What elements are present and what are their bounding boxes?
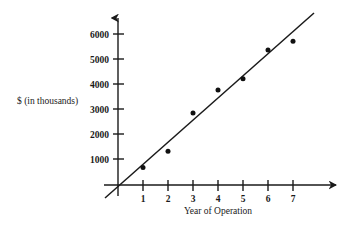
chart-canvas: 1000 2000 3000 4000 5000 6000 1 2 3 4 5 … xyxy=(0,0,362,235)
data-point xyxy=(216,88,221,93)
trend-line xyxy=(105,13,314,198)
x-tick-label-7: 7 xyxy=(291,194,296,204)
axes-group xyxy=(104,18,336,196)
x-tick-label-4: 4 xyxy=(216,194,221,204)
y-tick-label-3000: 3000 xyxy=(90,105,109,115)
data-point xyxy=(191,111,196,116)
data-point xyxy=(266,48,271,53)
data-point xyxy=(166,149,171,154)
y-tick-label-5000: 5000 xyxy=(90,55,109,65)
x-tick-label-5: 5 xyxy=(241,194,246,204)
y-tick-label-4000: 4000 xyxy=(90,80,109,90)
data-point xyxy=(141,165,146,170)
data-points-group xyxy=(141,39,296,170)
x-tick-label-3: 3 xyxy=(191,194,196,204)
data-point xyxy=(291,39,296,44)
y-tick-label-1000: 1000 xyxy=(90,155,109,165)
y-tick-label-2000: 2000 xyxy=(90,130,109,140)
x-axis-tick-labels: 1 2 3 4 5 6 7 xyxy=(141,194,296,204)
y-axis-title: $ (in thousands) xyxy=(17,96,78,107)
y-tick-label-6000: 6000 xyxy=(90,30,109,40)
data-point xyxy=(241,76,246,81)
x-tick-label-6: 6 xyxy=(266,194,271,204)
x-tick-label-1: 1 xyxy=(141,194,146,204)
scatter-chart: 1000 2000 3000 4000 5000 6000 1 2 3 4 5 … xyxy=(0,0,362,235)
x-tick-label-2: 2 xyxy=(166,194,171,204)
y-axis-tick-labels: 1000 2000 3000 4000 5000 6000 xyxy=(90,30,109,165)
x-axis-title: Year of Operation xyxy=(184,206,252,216)
